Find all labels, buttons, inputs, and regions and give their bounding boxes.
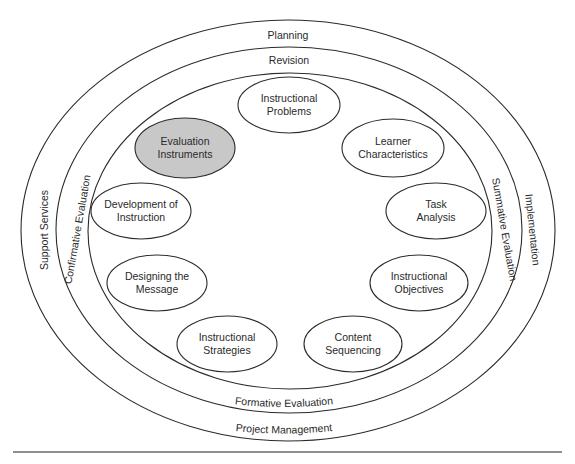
node-label-line2: Instruction bbox=[117, 211, 166, 223]
node-label-line1: Instructional bbox=[261, 92, 318, 104]
node-instructional-strategies: Instructional Strategies bbox=[177, 316, 277, 372]
node-task-analysis: Task Analysis bbox=[386, 183, 486, 239]
node-label-line1: Instructional bbox=[391, 270, 448, 282]
ring-label-revision: Revision bbox=[269, 54, 309, 66]
node-evaluation-instruments: Evaluation Instruments bbox=[135, 118, 235, 178]
ring-label-formative-evaluation: Formative Evaluation bbox=[235, 394, 334, 409]
node-label-line1: Learner bbox=[375, 135, 412, 147]
node-label-line2: Problems bbox=[267, 105, 311, 117]
ring-label-project-management: Project Management bbox=[235, 421, 332, 435]
node-label-line1: Development of bbox=[104, 198, 178, 210]
node-label-line1: Instructional bbox=[199, 331, 256, 343]
instructional-design-diagram: Planning Support Services Implementation… bbox=[0, 0, 575, 464]
ring-label-implementation: Implementation bbox=[523, 193, 542, 266]
node-designing-the-message: Designing the Message bbox=[107, 255, 207, 311]
node-label-line2: Strategies bbox=[203, 344, 250, 356]
node-label-line1: Task bbox=[425, 198, 447, 210]
project-management-path-text: Project Management bbox=[235, 421, 332, 435]
formative-evaluation-path-text: Formative Evaluation bbox=[235, 394, 334, 409]
node-learner-characteristics: Learner Characteristics bbox=[342, 119, 444, 177]
node-label-line1: Designing the bbox=[125, 270, 189, 282]
node-instructional-objectives: Instructional Objectives bbox=[370, 255, 468, 311]
node-label-line2: Sequencing bbox=[325, 344, 381, 356]
ring-label-summative-evaluation: Summative Evaluation bbox=[490, 177, 520, 282]
node-label-line2: Message bbox=[136, 283, 179, 295]
node-instructional-problems: Instructional Problems bbox=[238, 77, 340, 133]
node-label-line2: Instruments bbox=[158, 148, 213, 160]
node-label-line2: Analysis bbox=[416, 211, 455, 223]
node-label-line1: Evaluation bbox=[160, 135, 209, 147]
node-content-sequencing: Content Sequencing bbox=[304, 316, 402, 372]
ring-label-support-services: Support Services bbox=[38, 190, 50, 270]
ring-label-planning: Planning bbox=[268, 29, 309, 41]
node-development-of-instruction: Development of Instruction bbox=[91, 183, 191, 239]
node-label-line2: Objectives bbox=[394, 283, 443, 295]
node-label-line1: Content bbox=[335, 331, 372, 343]
node-label-line2: Characteristics bbox=[358, 148, 427, 160]
